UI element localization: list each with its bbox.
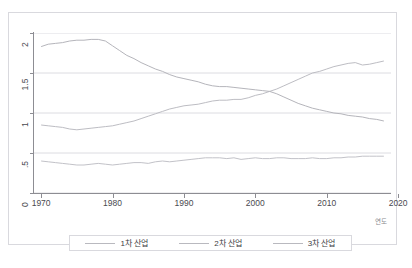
legend-item[interactable]: 2차 산업	[179, 239, 242, 248]
y-tick	[30, 33, 34, 34]
x-axis-title: 연도	[375, 218, 387, 226]
y-tick-label: 2	[21, 33, 30, 55]
x-axis-line	[33, 193, 391, 194]
legend-item[interactable]: 1차 산업	[85, 239, 148, 248]
bottom-cut-text	[0, 258, 407, 268]
y-tick-label: 1	[21, 113, 30, 135]
chart-figure: 0.511.52 197019801990200020102020 연도 1차 …	[8, 12, 397, 245]
y-tick-label: 1.5	[21, 73, 30, 95]
legend-label: 3차 산업	[308, 239, 336, 248]
y-tick	[30, 113, 34, 114]
series-line	[41, 39, 384, 121]
series-line	[41, 61, 384, 130]
x-tick-label: 2010	[310, 199, 344, 208]
legend-swatch-line	[273, 243, 303, 244]
plot-area	[34, 33, 391, 193]
legend-label: 1차 산업	[120, 239, 148, 248]
legend-swatch-line	[85, 243, 115, 244]
legend-swatch-line	[179, 243, 209, 244]
y-tick	[30, 153, 34, 154]
legend-label: 2차 산업	[214, 239, 242, 248]
x-tick-label: 1980	[96, 199, 130, 208]
y-tick	[30, 193, 34, 194]
x-tick-label: 2000	[238, 199, 272, 208]
x-tick-label: 2020	[381, 199, 412, 208]
x-tick-label: 1970	[24, 199, 58, 208]
chart-legend: 1차 산업2차 산업3차 산업	[69, 235, 352, 251]
y-tick	[30, 73, 34, 74]
series-lines	[34, 33, 391, 193]
top-cut-text	[0, 0, 407, 8]
y-tick-label: .5	[21, 153, 30, 175]
series-line	[41, 156, 384, 165]
x-tick-label: 1990	[167, 199, 201, 208]
legend-item[interactable]: 3차 산업	[273, 239, 336, 248]
